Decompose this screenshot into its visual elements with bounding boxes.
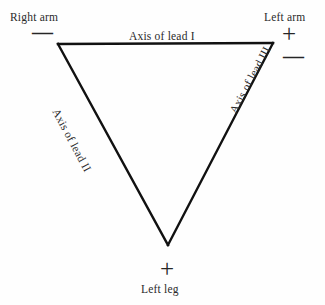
left-arm-minus-sign: —	[283, 46, 304, 67]
axis-of-lead-1-label: Axis of lead I	[129, 31, 195, 43]
einthoven-triangle-diagram: Right arm — Left arm + — + Left leg Axis…	[0, 0, 325, 305]
right-arm-minus-sign: —	[32, 22, 53, 43]
lead-1-edge	[58, 43, 273, 44]
left-leg-label: Left leg	[141, 284, 179, 296]
left-leg-plus-sign: +	[160, 256, 174, 281]
left-arm-plus-sign: +	[282, 21, 296, 46]
